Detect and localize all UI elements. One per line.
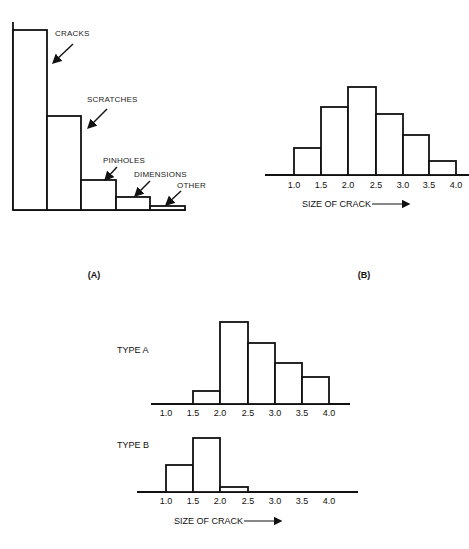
tick-label: 2.5 [242, 408, 255, 418]
bar-1.5-2.0 [193, 391, 220, 404]
bar-2.0-2.5 [220, 487, 248, 492]
tick-label: 4.0 [323, 408, 336, 418]
bar-3.0-3.5 [275, 363, 302, 404]
bar-pinholes [81, 180, 116, 210]
panel-label-b: (B) [358, 270, 371, 280]
tick-label: 2.5 [370, 180, 383, 190]
series-label-type-a: TYPE A [117, 345, 149, 355]
tick-label: 4.0 [323, 496, 336, 506]
tick-label: 2.0 [342, 180, 355, 190]
bar-1.0-1.5 [294, 148, 321, 175]
tick-label: 3.0 [397, 180, 410, 190]
bar-1.5-2.0 [193, 438, 220, 492]
histogram-type-b: TYPE B 1.0 1.5 2.0 2.5 3.0 3.5 4.0 SIZE … [117, 438, 358, 526]
arrow-icon [167, 191, 181, 204]
arrow-icon [89, 109, 107, 127]
tick-label: 3.0 [269, 496, 282, 506]
series-label-type-b: TYPE B [117, 440, 149, 450]
tick-label: 3.5 [296, 496, 309, 506]
tick-label: 1.5 [187, 408, 200, 418]
arrow-icon [106, 167, 117, 179]
tick-label: 1.0 [288, 180, 301, 190]
bar-2.5-3.0 [248, 343, 275, 404]
histogram-type-a: TYPE A 1.0 1.5 2.0 2.5 3.0 3.5 4.0 [117, 322, 350, 418]
bar-2.0-2.5 [348, 87, 376, 175]
bar-3.5-4.0 [429, 161, 456, 175]
histogram-chart-b: 1.0 1.5 2.0 2.5 3.0 3.5 4.0 SIZE OF CRAC… [265, 87, 469, 280]
label-scratches: SCRATCHES [87, 95, 138, 104]
bar-cracks [13, 30, 47, 210]
bar-1.5-2.0 [321, 107, 348, 175]
tick-label: 2.0 [214, 496, 227, 506]
tick-label: 3.5 [423, 180, 436, 190]
tick-label: 1.5 [315, 180, 328, 190]
label-pinholes: PINHOLES [103, 156, 145, 165]
arrow-icon [54, 44, 73, 62]
label-cracks: CRACKS [55, 29, 90, 38]
bar-2.0-2.5 [220, 322, 248, 404]
bar-dimensions [116, 197, 150, 210]
tick-label: 2.5 [242, 496, 255, 506]
tick-label: 1.0 [160, 408, 173, 418]
tick-label: 3.0 [269, 408, 282, 418]
bar-1.0-1.5 [166, 465, 193, 492]
tick-label: 1.5 [187, 496, 200, 506]
x-axis-label: SIZE OF CRACK [174, 516, 243, 526]
pareto-chart-a: CRACKS SCRATCHES PINHOLES DIMENSIONS OTH… [13, 22, 206, 280]
bar-3.0-3.5 [403, 135, 429, 175]
figure: CRACKS SCRATCHES PINHOLES DIMENSIONS OTH… [0, 0, 469, 549]
panel-label-a: (A) [88, 270, 101, 280]
bar-3.5-4.0 [302, 377, 329, 404]
label-other: OTHER [177, 181, 206, 190]
tick-label: 1.0 [160, 496, 173, 506]
tick-label: 4.0 [450, 180, 463, 190]
bar-2.5-3.0 [376, 114, 403, 175]
tick-label: 3.5 [296, 408, 309, 418]
x-axis-label: SIZE OF CRACK [302, 199, 371, 209]
bar-scratches [47, 116, 81, 210]
tick-label: 2.0 [214, 408, 227, 418]
bar-other [150, 206, 185, 210]
label-dimensions: DIMENSIONS [134, 170, 187, 179]
arrow-icon [136, 181, 150, 195]
